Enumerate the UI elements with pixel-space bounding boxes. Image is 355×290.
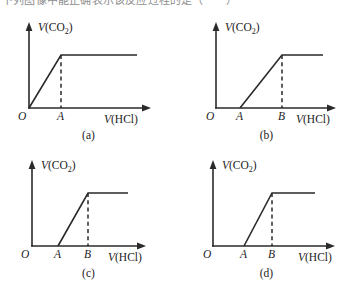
plot-area-a — [0, 8, 177, 126]
tick-point-b-c: B — [84, 249, 91, 261]
y-axis-open-b: (CO — [232, 21, 252, 33]
x-axis-arrow-c — [137, 243, 146, 250]
y-axis-label-c: V(CO2) — [41, 160, 76, 174]
plot-area-b — [178, 8, 355, 126]
x-axis-rest-a: (HCl) — [111, 113, 138, 125]
x-axis-label-a: V(HCl) — [104, 114, 138, 126]
caption-b: (b) — [178, 130, 355, 142]
series-line-c — [58, 193, 128, 246]
chart-panel-c: V(CO2) V(HCl) O A B (c) — [0, 146, 177, 286]
tick-point-a-d: A — [240, 249, 247, 261]
tick-origin-a: O — [18, 111, 26, 123]
y-axis-arrow-b — [213, 22, 220, 31]
chart-panel-a: V(CO2) V(HCl) O A (a) — [0, 8, 177, 148]
x-axis-label-c: V(HCl) — [108, 252, 142, 264]
tick-point-a-b: A — [236, 111, 243, 123]
series-line-a — [29, 55, 137, 108]
plot-area-c — [0, 146, 177, 264]
clipped-header-line: 下列图像中能正确表示该反应过程的是（ ） — [2, 0, 237, 7]
x-axis-arrow-d — [326, 243, 335, 250]
y-axis-symbol-d: V — [222, 159, 229, 171]
tick-origin-d: O — [203, 249, 211, 261]
y-axis-open-a: (CO — [45, 21, 65, 33]
x-axis-label-b: V(HCl) — [296, 114, 330, 126]
caption-a: (a) — [0, 130, 177, 142]
x-axis-symbol-c: V — [108, 251, 115, 263]
tick-point-a-c: A — [54, 249, 61, 261]
y-axis-label-d: V(CO2) — [222, 160, 257, 174]
y-axis-symbol-a: V — [38, 21, 45, 33]
x-axis-rest-c: (HCl) — [115, 251, 142, 263]
y-axis-label-a: V(CO2) — [38, 22, 73, 36]
tick-point-a-a: A — [57, 111, 64, 123]
caption-d: (d) — [178, 268, 355, 280]
caption-c: (c) — [0, 268, 177, 280]
tick-origin-b: O — [206, 111, 214, 123]
x-axis-symbol-b: V — [296, 113, 303, 125]
chart-panel-b: V(CO2) V(HCl) O A B (b) — [178, 8, 355, 148]
plot-area-d — [178, 146, 355, 264]
chart-panel-d: V(CO2) V(HCl) O A B (d) — [178, 146, 355, 286]
x-axis-symbol-d: V — [298, 251, 305, 263]
y-axis-arrow-a — [26, 22, 33, 31]
y-axis-arrow-c — [29, 160, 36, 169]
x-axis-label-d: V(HCl) — [298, 252, 332, 264]
y-axis-close-b: ) — [256, 21, 260, 33]
y-axis-symbol-c: V — [41, 159, 48, 171]
y-axis-close-d: ) — [253, 159, 257, 171]
y-axis-open-d: (CO — [229, 159, 249, 171]
tick-origin-c: O — [21, 249, 29, 261]
tick-point-b-d: B — [268, 249, 275, 261]
series-line-d — [244, 193, 315, 246]
x-axis-rest-b: (HCl) — [303, 113, 330, 125]
y-axis-label-b: V(CO2) — [225, 22, 260, 36]
tick-point-b-b: B — [278, 111, 285, 123]
x-axis-rest-d: (HCl) — [305, 251, 332, 263]
y-axis-open-c: (CO — [48, 159, 68, 171]
y-axis-arrow-d — [210, 160, 217, 169]
x-axis-arrow-a — [142, 105, 151, 112]
x-axis-arrow-b — [327, 105, 336, 112]
y-axis-close-c: ) — [72, 159, 76, 171]
y-axis-close-a: ) — [69, 21, 73, 33]
figure-sheet: 下列图像中能正确表示该反应过程的是（ ） V(CO2) V(HCl) O A (… — [0, 0, 355, 290]
x-axis-symbol-a: V — [104, 113, 111, 125]
y-axis-symbol-b: V — [225, 21, 232, 33]
